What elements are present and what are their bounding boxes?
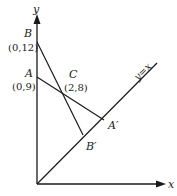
point-B-label: B: [23, 27, 32, 40]
point-Bprime-label: B′: [85, 140, 97, 153]
y-axis-label: y: [32, 3, 40, 16]
point-A-label: A: [24, 67, 33, 80]
reflection-diagram: y x y=x B (0,12) A (0,9) C (2,8) A′ B′: [0, 0, 177, 196]
x-axis-label: x: [168, 178, 175, 191]
point-Aprime-label: A′: [107, 119, 119, 132]
point-C-label: C: [69, 68, 78, 81]
point-B-coords: (0,12): [8, 42, 38, 53]
point-A-coords: (0,9): [12, 81, 36, 92]
point-C-coords: (2,8): [64, 82, 88, 93]
line-label: y=x: [131, 60, 154, 83]
x-axis-arrow-icon: [156, 181, 166, 188]
